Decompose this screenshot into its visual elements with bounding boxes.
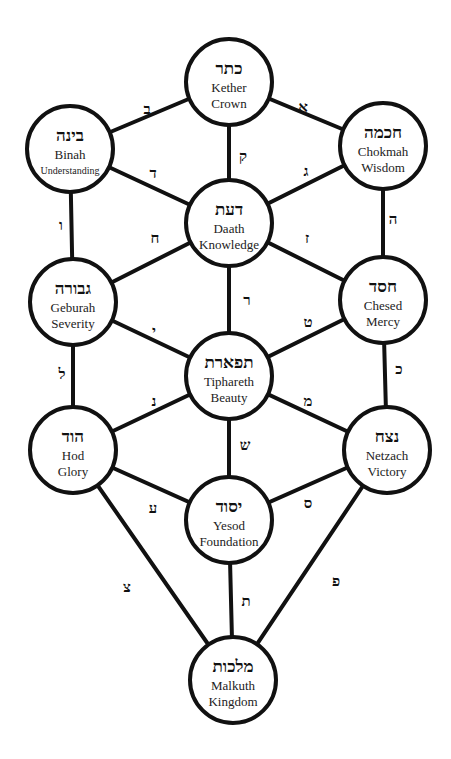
sephirah-daath: דעתDaathKnowledge [186, 180, 272, 266]
sephirah-hebrew: הוד [62, 426, 84, 446]
sephirah-meaning: Wisdom [361, 160, 405, 175]
path-letter: ז [305, 229, 309, 247]
path-letter: ח [151, 229, 160, 247]
sephirah-meaning: Glory [58, 464, 89, 479]
sephirah-meaning: Understanding [41, 165, 100, 176]
sephirah-kether: כתרKetherCrown [186, 39, 272, 125]
sephirah-name: Geburah [51, 300, 96, 315]
path-letter: פ [332, 572, 340, 590]
path-letter: נ [152, 392, 157, 410]
sephirah-hebrew: בינה [56, 125, 84, 145]
sephirah-name: Chesed [364, 298, 403, 313]
tree-of-life-diagram: באקדגוחזהריטלכנמשעסצתפ כתרKetherCrownבינ… [0, 0, 451, 759]
path-letter: ל [57, 365, 65, 383]
sephirah-hebrew: חכמה [364, 122, 402, 142]
sephirah-meaning: Knowledge [199, 237, 259, 252]
sephirah-name: Malkuth [211, 678, 256, 693]
sephirah-meaning: Beauty [211, 390, 248, 405]
sephirah-name: Kether [211, 80, 247, 95]
sephirah-hebrew: תפארת [204, 352, 253, 372]
sephirah-name: Netzach [366, 448, 409, 463]
sephirah-hod: הודHodGlory [30, 407, 116, 493]
sephirah-hebrew: חסד [369, 276, 397, 296]
sephirah-hebrew: יסוד [216, 496, 243, 516]
sephirah-tiphareth: תפארתTipharethBeauty [186, 333, 272, 419]
sephirah-hebrew: גבורה [55, 278, 92, 298]
sephirah-hebrew: דעת [215, 199, 243, 219]
path-letter: ה [389, 210, 398, 228]
sephirah-chesed: חסדChesedMercy [340, 257, 426, 343]
path-letter: ש [240, 436, 251, 454]
sephirah-binah: בינהBinahUnderstanding [27, 106, 113, 192]
path-letter: צ [123, 578, 131, 596]
sephirah-name: Yesod [213, 518, 245, 533]
sephirah-chokmah: חכמהChokmahWisdom [340, 103, 426, 189]
sephirah-hebrew: נצח [375, 426, 400, 446]
path-letter: מ [304, 392, 313, 410]
sephirah-name: Tiphareth [204, 374, 255, 389]
path-letter: ר [243, 291, 250, 309]
sephirah-yesod: יסודYesodFoundation [186, 477, 272, 563]
path-letter: ע [149, 499, 158, 517]
sephirah-netzach: נצחNetzachVictory [344, 407, 430, 493]
sephirah-meaning: Mercy [366, 314, 400, 329]
sephirah-hebrew: כתר [215, 58, 242, 78]
sephirah-meaning: Kingdom [208, 694, 257, 709]
sephirah-meaning: Victory [368, 464, 407, 479]
path-letter: ת [241, 592, 250, 610]
path-letter: ג [304, 162, 309, 180]
path-letter: ס [304, 494, 313, 512]
path-letter: ד [149, 164, 156, 182]
sephirah-name: Daath [213, 221, 245, 236]
sephirah-meaning: Crown [211, 96, 247, 111]
path-letter: א [298, 98, 308, 116]
path-letter: י [152, 322, 156, 340]
sephirah-meaning: Foundation [199, 534, 259, 549]
sephirah-hebrew: מלכות [212, 656, 253, 676]
path-letter: ב [143, 100, 150, 118]
sephirah-name: Chokmah [358, 144, 409, 159]
sephirah-name: Hod [62, 448, 85, 463]
sephirah-name: Binah [54, 147, 86, 162]
sephirah-meaning: Severity [51, 316, 95, 331]
path-letter: ט [303, 313, 312, 331]
path-letter: כ [395, 360, 402, 378]
path-letter: ק [239, 147, 247, 165]
sephirah-geburah: גבורהGeburahSeverity [30, 259, 116, 345]
sephirah-malkuth: מלכותMalkuthKingdom [190, 637, 276, 723]
path-letter: ו [59, 216, 63, 234]
